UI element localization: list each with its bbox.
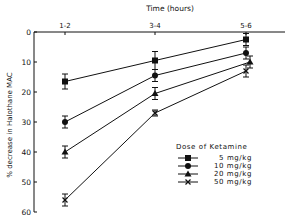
y-tick-label: 10 — [21, 58, 31, 67]
triangle-marker-icon — [178, 170, 198, 178]
legend-label: 5 mg/kg — [204, 154, 252, 162]
x-axis-title: Time (hours) — [145, 4, 194, 13]
y-tick-label: 60 — [21, 208, 31, 217]
legend-item-10mgkg: 10 mg/kg — [176, 162, 252, 170]
legend-title: Dose of Ketamine — [176, 143, 252, 151]
circle-marker-icon — [178, 162, 198, 170]
line-chart: Time (hours) 1-2 3-4 5-6 0 10 20 30 40 5… — [0, 0, 294, 223]
chart-legend: Dose of Ketamine 5 mg/kg 10 mg/kg 20 mg/… — [176, 143, 252, 186]
legend-label: 50 mg/kg — [204, 178, 252, 186]
x-marker-icon — [178, 178, 198, 186]
x-tick-label: 3-4 — [149, 22, 161, 30]
series-20mgkg-markers — [62, 59, 254, 155]
y-tick-label: 0 — [26, 28, 31, 37]
legend-label: 20 mg/kg — [204, 170, 252, 178]
y-tick-label: 20 — [21, 88, 31, 97]
legend-item-20mgkg: 20 mg/kg — [176, 170, 252, 178]
x-tick-label: 5-6 — [240, 22, 252, 30]
x-tick-label: 1-2 — [59, 22, 70, 30]
x-tick-labels: 1-2 3-4 5-6 — [59, 22, 252, 30]
y-tick-label: 30 — [21, 118, 31, 127]
y-tick-label: 50 — [21, 178, 31, 187]
legend-item-5mgkg: 5 mg/kg — [176, 154, 252, 162]
y-axis-title: % decrease in Halothane MAC — [6, 72, 14, 178]
square-marker-icon — [178, 154, 198, 162]
legend-label: 10 mg/kg — [204, 162, 252, 170]
y-tick-labels: 0 10 20 30 40 50 60 — [21, 28, 31, 217]
y-tick-label: 40 — [21, 148, 31, 157]
legend-item-50mgkg: 50 mg/kg — [176, 178, 252, 186]
